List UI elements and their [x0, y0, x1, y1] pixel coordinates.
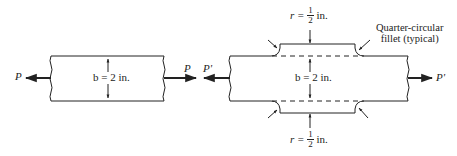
top-radius-denominator: 2	[307, 16, 314, 25]
left-bar-force-right-label: P	[184, 63, 191, 75]
left-bar-width-label: b = 2 in.	[92, 72, 131, 84]
fillet-note-line1: Quarter-circular	[376, 22, 443, 33]
bottom-radius-var: r =	[290, 133, 304, 145]
top-radius-unit: in.	[316, 9, 327, 21]
left-bar-force-left-label: P	[15, 71, 22, 83]
bottom-radius-label: r = 1 2 in.	[290, 130, 328, 149]
fillet-note-line2: fillet (typical)	[376, 33, 443, 44]
fillet-arrow-bottom-right	[359, 108, 368, 118]
right-bar-bottom-edge	[230, 101, 408, 113]
right-bar-top-edge	[230, 44, 408, 56]
top-radius-label: r = 1 2 in.	[290, 6, 328, 25]
right-bar-force-right-label: P'	[436, 72, 445, 84]
bottom-radius-unit: in.	[316, 133, 327, 145]
fillet-arrow-bottom-left	[268, 110, 277, 118]
fillet-arrow-top-left	[268, 40, 277, 48]
right-bar-force-left-label: P'	[203, 63, 212, 75]
right-bar-width-label: b = 2 in.	[294, 72, 333, 84]
bottom-radius-denominator: 2	[307, 140, 314, 149]
bottom-radius-fraction: 1 2	[307, 130, 314, 149]
fillet-arrow-top-right	[359, 40, 370, 50]
fillet-note: Quarter-circular fillet (typical)	[376, 22, 443, 44]
top-radius-fraction: 1 2	[307, 6, 314, 25]
top-radius-var: r =	[290, 9, 304, 21]
